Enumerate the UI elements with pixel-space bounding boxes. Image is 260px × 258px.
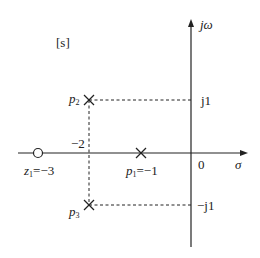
pole-p1-label: p1=−1 (126, 164, 158, 179)
zero-z1-label: z1=−3 (24, 164, 54, 179)
origin-label: 0 (198, 158, 205, 171)
zero-z1-label-value: =−3 (33, 163, 54, 178)
real-tick-minus-2: −2 (71, 137, 85, 150)
imag-tick-lower: −j1 (197, 199, 214, 212)
real-axis-arrow-icon (240, 150, 248, 156)
pole-p3-label-sub: 3 (76, 211, 80, 220)
imag-axis-label: jω (200, 18, 213, 31)
zero-z1-circle-icon (34, 149, 43, 158)
imag-axis-arrow-icon (188, 19, 194, 27)
imag-tick-upper: j1 (201, 94, 211, 107)
pole-p2-cross-icon (84, 95, 94, 105)
pole-p1-label-value: =−1 (137, 163, 158, 178)
plot-graphics (0, 0, 260, 258)
pole-p2-label-sub: 2 (76, 98, 80, 107)
real-axis-label: σ (235, 158, 241, 171)
s-plane-diagram: [s] jω j1 −j1 0 σ −2 z1=−3 p1=−1 p2 p3 (0, 0, 260, 258)
plane-label: [s] (56, 36, 70, 49)
pole-p3-label: p3 (69, 205, 80, 220)
pole-p2-label: p2 (69, 92, 80, 107)
